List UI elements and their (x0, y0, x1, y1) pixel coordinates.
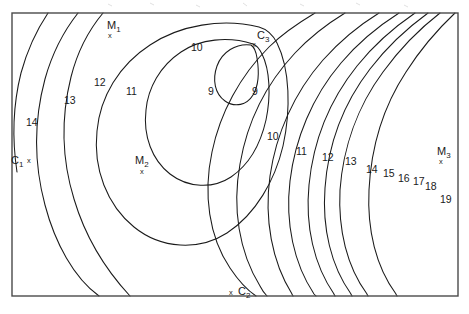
contour-level-label: 17 (413, 176, 425, 187)
contour-level-label: 10 (191, 42, 203, 53)
point-marker-label-C1: C1 (11, 155, 23, 169)
marker-letter: M (437, 145, 446, 157)
contour-line (37, 13, 99, 296)
contour-level-label: 9 (208, 86, 214, 97)
marker-letter: M (107, 19, 116, 31)
marker-subscript: 2 (246, 291, 250, 300)
scan-artifact (243, 3, 247, 6)
point-marker-x-icon: x (439, 158, 443, 166)
contour-level-label: 14 (366, 164, 378, 175)
point-marker-x-icon: x (229, 289, 233, 297)
scan-artifact (300, 4, 304, 6)
contour-level-label: 15 (383, 168, 395, 179)
point-marker-x-icon: x (252, 41, 256, 49)
contour-level-label: 13 (64, 95, 76, 106)
contour-plot-svg (0, 0, 469, 314)
contour-line (145, 40, 269, 186)
scan-artifact (196, 5, 200, 7)
marker-subscript: 3 (265, 35, 269, 44)
scan-artifact-layer (108, 3, 408, 7)
contour-level-label: 9 (252, 86, 258, 97)
scan-artifact (108, 4, 112, 6)
contour-line (14, 13, 48, 172)
marker-letter: M (135, 154, 144, 166)
point-marker-label-C3: C3 (257, 30, 269, 44)
contour-line (96, 23, 288, 245)
contour-level-label: 11 (296, 146, 307, 157)
contour-level-label: 11 (126, 86, 137, 97)
contour-level-label: 19 (440, 194, 452, 205)
point-marker-label-C2: C2 (238, 286, 250, 300)
marker-subscript: 1 (116, 25, 120, 34)
marker-subscript: 1 (19, 160, 23, 169)
marker-subscript: 2 (144, 160, 148, 169)
contour-level-label: 14 (26, 117, 38, 128)
scan-artifact (356, 3, 360, 5)
contour-level-label: 12 (322, 152, 334, 163)
point-marker-x-icon: x (140, 168, 144, 176)
marker-letter: C (11, 154, 19, 166)
contour-level-label: 13 (345, 156, 357, 167)
scan-artifact (404, 5, 408, 7)
marker-letter: C (257, 29, 265, 41)
point-marker-x-icon: x (27, 157, 31, 165)
plot-frame (12, 13, 458, 296)
point-marker-x-icon: x (108, 32, 112, 40)
contour-line-layer (14, 13, 455, 296)
contour-level-label: 12 (94, 77, 106, 88)
marker-subscript: 3 (446, 151, 450, 160)
marker-letter: C (238, 285, 246, 297)
contour-level-label: 18 (425, 181, 437, 192)
contour-level-label: 10 (267, 131, 279, 142)
contour-level-label: 16 (398, 173, 410, 184)
scan-artifact (150, 3, 154, 5)
contour-figure: M1xC3xC1xM2xC2xM3x9910101111121213131414… (0, 0, 469, 314)
